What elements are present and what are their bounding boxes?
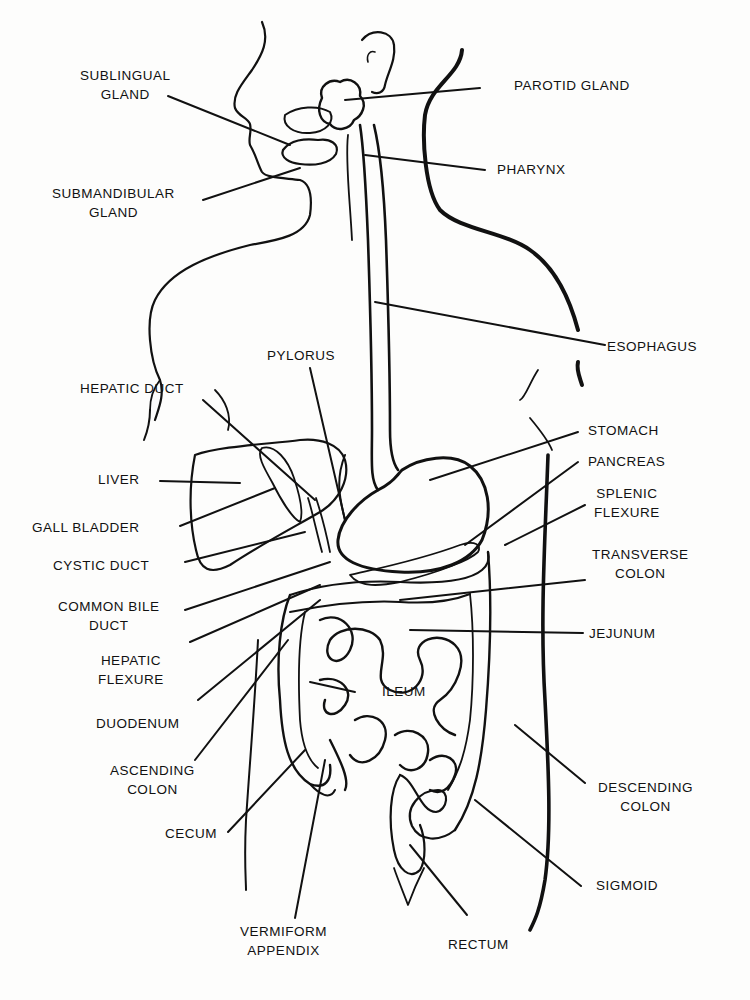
gall-bladder-shape — [260, 447, 302, 522]
label-pharynx: PHARYNX — [497, 160, 566, 179]
label-line: APPENDIX — [240, 941, 327, 960]
label-line: SUBMANDIBULAR — [52, 184, 175, 203]
esophagus-tube — [360, 125, 378, 490]
label-stomach: STOMACH — [588, 421, 659, 440]
label-line: SPLENIC — [594, 484, 660, 503]
label-ascending-colon: ASCENDING COLON — [110, 761, 195, 799]
label-line: ILEUM — [382, 682, 426, 701]
label-line: RECTUM — [448, 935, 509, 954]
label-line: GLAND — [80, 85, 171, 104]
transverse-colon-shape — [290, 552, 489, 595]
sigmoid-shape — [400, 775, 455, 839]
label-line: FLEXURE — [594, 503, 660, 522]
parotid-gland-shape — [319, 80, 364, 129]
label-pancreas: PANCREAS — [588, 452, 665, 471]
label-line: ESOPHAGUS — [607, 337, 697, 356]
label-pylorus: PYLORUS — [267, 346, 335, 365]
label-rectum: RECTUM — [448, 935, 509, 954]
label-line: COLON — [592, 564, 689, 583]
label-line: HEPATIC DUCT — [80, 379, 184, 398]
label-esophagus: ESOPHAGUS — [607, 337, 697, 356]
label-hepatic-flexure: HEPATIC FLEXURE — [98, 651, 164, 689]
label-cecum: CECUM — [165, 824, 217, 843]
leader-lines — [160, 88, 605, 918]
label-line: PAROTID GLAND — [514, 76, 630, 95]
label-line: PYLORUS — [267, 346, 335, 365]
label-line: COLON — [110, 780, 195, 799]
small-intestine-coils — [320, 617, 461, 792]
label-sublingual-gland: SUBLINGUAL GLAND — [80, 66, 171, 104]
label-line: HEPATIC — [98, 651, 164, 670]
label-line: ASCENDING — [110, 761, 195, 780]
label-transverse-colon: TRANSVERSE COLON — [592, 545, 689, 583]
label-line: SUBLINGUAL — [80, 66, 171, 85]
label-line: PANCREAS — [588, 452, 665, 471]
label-line: JEJUNUM — [589, 624, 656, 643]
label-ileum: ILEUM — [382, 682, 426, 701]
digestive-system-diagram: SUBLINGUAL GLAND SUBMANDIBULAR GLAND PAR… — [0, 0, 750, 1000]
label-line: COLON — [598, 797, 693, 816]
label-line: GALL BLADDER — [32, 518, 140, 537]
label-line: COMMON BILE — [58, 597, 160, 616]
label-line: LIVER — [98, 470, 140, 489]
label-parotid-gland: PAROTID GLAND — [514, 76, 630, 95]
label-line: DESCENDING — [598, 778, 693, 797]
ascending-colon-shape — [278, 595, 330, 786]
label-hepatic-duct: HEPATIC DUCT — [80, 379, 184, 398]
label-sigmoid: SIGMOID — [596, 876, 658, 895]
label-duodenum: DUODENUM — [96, 714, 180, 733]
label-jejunum: JEJUNUM — [589, 624, 656, 643]
label-line: DUCT — [58, 616, 160, 635]
label-line: STOMACH — [588, 421, 659, 440]
label-line: VERMIFORM — [240, 922, 327, 941]
label-submandibular-gland: SUBMANDIBULAR GLAND — [52, 184, 175, 222]
label-cystic-duct: CYSTIC DUCT — [53, 556, 149, 575]
ear — [362, 32, 394, 93]
label-line: CYSTIC DUCT — [53, 556, 149, 575]
label-line: DUODENUM — [96, 714, 180, 733]
label-line: CECUM — [165, 824, 217, 843]
label-descending-colon: DESCENDING COLON — [598, 778, 693, 816]
label-liver: LIVER — [98, 470, 140, 489]
label-line: SIGMOID — [596, 876, 658, 895]
submandibular-gland-shape — [282, 139, 336, 164]
label-splenic-flexure: SPLENIC FLEXURE — [594, 484, 660, 522]
label-gall-bladder: GALL BLADDER — [32, 518, 140, 537]
label-line: PHARYNX — [497, 160, 566, 179]
label-line: FLEXURE — [98, 670, 164, 689]
stomach-shape — [338, 458, 488, 572]
label-line: TRANSVERSE — [592, 545, 689, 564]
rectum-shape — [391, 775, 425, 874]
left-torso-outline — [245, 640, 258, 890]
label-vermiform-appendix: VERMIFORM APPENDIX — [240, 922, 327, 960]
label-line: GLAND — [52, 203, 175, 222]
label-common-bile-duct: COMMON BILE DUCT — [58, 597, 160, 635]
